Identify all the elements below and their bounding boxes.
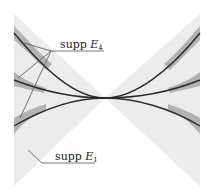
supp-e1-label: supp E1 — [55, 150, 98, 164]
support-diagram: supp E4 supp E1 — [0, 0, 211, 193]
supp-e1-region-right — [105, 14, 200, 186]
supp-e4-label: supp E4 — [60, 38, 103, 52]
